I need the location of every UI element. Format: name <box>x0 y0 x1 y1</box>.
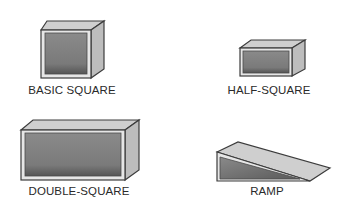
basic-square-side-face <box>91 21 104 78</box>
basic-square-block <box>41 21 104 78</box>
double-square-opening <box>25 133 121 176</box>
half-square-block <box>240 40 305 76</box>
half-square-opening <box>243 51 289 73</box>
double-square-label: DOUBLE-SQUARE <box>29 185 130 197</box>
basic-square-label: BASIC SQUARE <box>28 84 115 96</box>
double-square-block <box>21 120 139 180</box>
block-shapes-diagram <box>0 0 348 207</box>
double-square-top-face <box>21 120 139 130</box>
basic-square-opening <box>45 33 87 74</box>
double-square-side-face <box>125 120 139 180</box>
ramp-label: RAMP <box>250 185 284 197</box>
half-square-label: HALF-SQUARE <box>228 84 311 96</box>
ramp-block <box>217 142 330 181</box>
